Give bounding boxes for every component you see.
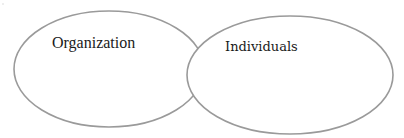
individuals-label: Individuals [225,39,298,54]
set-organization: Organization [14,11,204,127]
stray-dot [2,3,4,5]
individuals-ellipse [187,16,393,134]
organization-label: Organization [52,34,135,52]
set-individuals: Individuals [187,16,393,134]
venn-diagram: Organization Individuals [0,0,404,138]
organization-ellipse [14,11,204,127]
